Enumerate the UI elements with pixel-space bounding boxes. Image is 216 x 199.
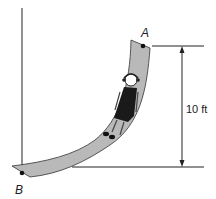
point-a-marker (141, 44, 146, 49)
height-label: 10 ft (186, 103, 207, 115)
height-dimension-arrow (180, 46, 185, 167)
point-a-label: A (140, 26, 149, 40)
point-b-marker (20, 171, 25, 176)
point-b-label: B (15, 183, 23, 197)
slide-diagram: A B 10 ft (0, 0, 216, 199)
